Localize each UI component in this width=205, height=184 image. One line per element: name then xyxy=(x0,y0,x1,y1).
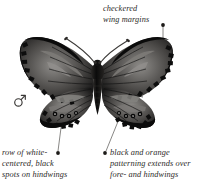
callout-black-and-orange-patterning: black and orange patterning extends over… xyxy=(110,147,191,181)
callout-line: row of white- xyxy=(2,147,67,158)
butterfly-figure-plate: checkered wing margins row of white- cen… xyxy=(0,0,205,184)
callout-line: patterning extends over xyxy=(110,158,191,169)
antennae-clubs xyxy=(64,36,131,42)
abdomen xyxy=(93,79,101,115)
callout-dot-checkered-margins xyxy=(161,23,165,27)
callout-white-centered-black-spots: row of white- centered, black spots on h… xyxy=(2,147,67,181)
callout-line: checkered xyxy=(103,3,149,14)
callout-line: centered, black xyxy=(2,158,67,169)
callout-checkered-wing-margins: checkered wing margins xyxy=(103,3,149,25)
callout-line: wing margins xyxy=(103,14,149,25)
callout-line: fore- and hindwings xyxy=(110,169,191,180)
callout-line: black and orange xyxy=(110,147,191,158)
callout-line: spots on hindwings xyxy=(2,169,67,180)
male-symbol xyxy=(13,92,27,108)
callout-dot-patterning xyxy=(103,151,107,155)
